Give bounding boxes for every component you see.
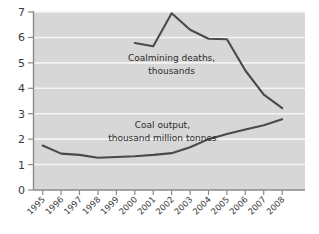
y-tick-label: 7 <box>18 6 25 19</box>
x-tick-label: 1998 <box>80 194 102 216</box>
y-tick-label: 1 <box>18 159 25 172</box>
y-tick-label: 3 <box>18 108 25 121</box>
x-tick-label: 1999 <box>98 194 120 216</box>
x-tick-label: 2004 <box>191 194 213 216</box>
plot-background <box>33 12 305 190</box>
y-tick-label: 6 <box>18 31 25 44</box>
y-tick-labels: 0 1 2 3 4 5 6 7 <box>18 6 25 197</box>
y-tick-label: 4 <box>18 82 25 95</box>
x-tick-label: 2000 <box>117 194 139 216</box>
x-tick-label: 2007 <box>246 194 268 216</box>
annotation-line: Coalmining deaths, <box>128 53 215 63</box>
annotation-line: thousand million tonnes <box>108 133 217 143</box>
line-chart-svg: 0 1 2 3 4 5 6 7 1995 <box>0 0 319 234</box>
annotation-line: thousands <box>148 66 195 76</box>
x-tick-label: 2003 <box>172 194 194 216</box>
y-tick-label: 0 <box>18 184 25 197</box>
x-tick-label: 1996 <box>43 194 65 216</box>
x-tick-label: 2001 <box>135 194 157 216</box>
chart-figure: 0 1 2 3 4 5 6 7 1995 <box>0 0 319 234</box>
y-tick-marks <box>28 12 33 190</box>
x-tick-label: 1995 <box>25 194 47 216</box>
x-tick-label: 1997 <box>62 194 84 216</box>
x-tick-label: 2008 <box>264 194 286 216</box>
x-tick-label: 2002 <box>154 194 176 216</box>
y-tick-label: 2 <box>18 133 25 146</box>
x-tick-label: 2006 <box>227 194 249 216</box>
x-tick-marks <box>43 190 283 195</box>
x-tick-labels: 1995 1996 1997 1998 1999 2000 2001 2002 … <box>25 194 287 216</box>
x-tick-label: 2005 <box>209 194 231 216</box>
annotation-line: Coal output, <box>135 120 190 130</box>
y-tick-label: 5 <box>18 57 25 70</box>
